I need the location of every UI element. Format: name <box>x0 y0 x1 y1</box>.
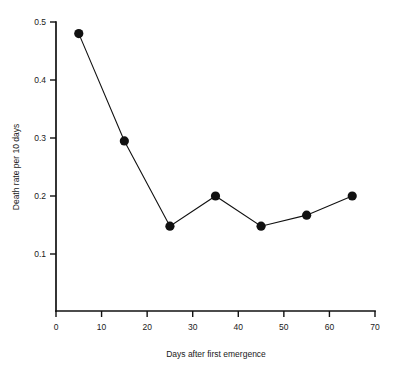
y-axis: 0.10.20.30.40.5 <box>34 17 56 311</box>
line-chart-canvas: 0.10.20.30.40.5 010203040506070 Days aft… <box>0 0 398 374</box>
y-axis-title: Death rate per 10 days <box>11 124 21 210</box>
x-axis-tick-labels: 010203040506070 <box>54 322 380 332</box>
data-point <box>120 136 129 145</box>
x-tick-label: 10 <box>97 322 107 332</box>
y-axis-ticks <box>50 22 56 254</box>
data-point <box>256 222 265 231</box>
x-tick-label: 70 <box>370 322 380 332</box>
data-point <box>302 211 311 220</box>
x-tick-label: 20 <box>142 322 152 332</box>
y-axis-tick-labels: 0.10.20.30.40.5 <box>34 17 46 259</box>
y-tick-label: 0.4 <box>34 75 46 85</box>
x-axis-title: Days after first emergence <box>166 349 266 359</box>
data-point <box>348 191 357 200</box>
x-tick-label: 30 <box>188 322 198 332</box>
y-tick-label: 0.5 <box>34 17 46 27</box>
x-axis-ticks <box>56 311 375 317</box>
x-tick-label: 60 <box>325 322 335 332</box>
y-tick-label: 0.2 <box>34 191 46 201</box>
data-point <box>74 29 83 38</box>
data-point <box>165 222 174 231</box>
data-point <box>211 191 220 200</box>
x-tick-label: 50 <box>279 322 289 332</box>
x-tick-label: 40 <box>234 322 244 332</box>
x-tick-label: 0 <box>54 322 59 332</box>
x-axis: 010203040506070 <box>54 311 380 332</box>
chart-figure: 0.10.20.30.40.5 010203040506070 Days aft… <box>0 0 398 374</box>
y-tick-label: 0.1 <box>34 249 46 259</box>
data-series <box>74 29 357 231</box>
y-tick-label: 0.3 <box>34 133 46 143</box>
series-markers <box>74 29 357 231</box>
